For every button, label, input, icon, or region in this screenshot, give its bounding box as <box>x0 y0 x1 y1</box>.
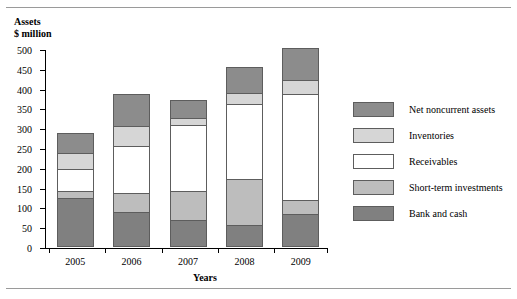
x-tick-label-2007: 2007 <box>178 256 198 267</box>
bar-2006[interactable] <box>113 49 150 247</box>
y-tick-label-200: 200 <box>17 163 32 174</box>
bar-segment-2006-short-term-investments[interactable] <box>113 193 150 214</box>
y-tick-350: 350 <box>40 109 45 110</box>
bar-segment-2006-bank-and-cash[interactable] <box>113 212 150 247</box>
bar-segment-2008-net-noncurrent-assets[interactable] <box>226 67 263 95</box>
x-axis-line <box>45 248 328 249</box>
bar-segment-2006-net-noncurrent-assets[interactable] <box>113 94 150 127</box>
y-tick-label-0: 0 <box>27 243 32 254</box>
x-axis-title: Years <box>150 272 260 283</box>
y-axis-title: Assets $ million <box>14 16 52 39</box>
bar-2005[interactable] <box>57 49 94 247</box>
bar-segment-2007-net-noncurrent-assets[interactable] <box>170 100 207 119</box>
y-tick-150: 150 <box>40 189 45 190</box>
y-tick-label-300: 300 <box>17 124 32 135</box>
x-tick-2007 <box>162 248 163 253</box>
bar-segment-2008-inventories[interactable] <box>226 93 263 105</box>
legend-label: Receivables <box>409 156 457 167</box>
legend-item[interactable]: Receivables <box>353 148 503 174</box>
bar-2008[interactable] <box>226 49 263 247</box>
legend-label: Short-term investments <box>409 182 503 193</box>
bar-segment-2009-receivables[interactable] <box>282 94 319 202</box>
y-tick-label-350: 350 <box>17 104 32 115</box>
chart-figure: Assets $ million 50045040035030025020015… <box>0 0 517 299</box>
y-tick-0: 0 <box>40 248 45 249</box>
bar-segment-2009-net-noncurrent-assets[interactable] <box>282 48 319 81</box>
bar-segment-2009-inventories[interactable] <box>282 80 319 95</box>
x-tick-end <box>327 248 328 253</box>
bar-2009[interactable] <box>282 49 319 247</box>
top-divider-rule <box>6 7 511 8</box>
y-tick-200: 200 <box>40 169 45 170</box>
legend-swatch-icon <box>353 128 394 143</box>
x-tick-label-2009: 2009 <box>291 256 311 267</box>
legend-item[interactable]: Inventories <box>353 122 503 148</box>
y-tick-label-500: 500 <box>17 45 32 56</box>
bar-2007[interactable] <box>170 49 207 247</box>
y-tick-label-150: 150 <box>17 183 32 194</box>
y-tick-label-400: 400 <box>17 84 32 95</box>
x-tick-label-2008: 2008 <box>234 256 254 267</box>
x-tick-2006 <box>105 248 106 253</box>
y-tick-label-250: 250 <box>17 144 32 155</box>
plot-area: 500450400350300250200150100500 200520062… <box>45 50 327 248</box>
bar-segment-2006-inventories[interactable] <box>113 126 150 147</box>
legend-item[interactable]: Short-term investments <box>353 174 503 200</box>
y-tick-400: 400 <box>40 90 45 91</box>
y-axis-line <box>45 50 46 249</box>
bar-segment-2008-short-term-investments[interactable] <box>226 179 263 227</box>
x-tick-2008 <box>218 248 219 253</box>
legend-swatch-icon <box>353 206 394 221</box>
x-tick-label-2006: 2006 <box>122 256 142 267</box>
bar-segment-2007-bank-and-cash[interactable] <box>170 220 207 247</box>
bar-segment-2007-short-term-investments[interactable] <box>170 191 207 222</box>
y-tick-300: 300 <box>40 129 45 130</box>
y-tick-label-50: 50 <box>22 223 32 234</box>
y-tick-label-450: 450 <box>17 64 32 75</box>
y-tick-100: 100 <box>40 208 45 209</box>
y-tick-250: 250 <box>40 149 45 150</box>
bar-segment-2005-short-term-investments[interactable] <box>57 191 94 200</box>
bar-segment-2009-bank-and-cash[interactable] <box>282 214 319 247</box>
bar-segment-2005-bank-and-cash[interactable] <box>57 198 94 247</box>
bar-segment-2005-net-noncurrent-assets[interactable] <box>57 133 94 154</box>
bar-segment-2007-receivables[interactable] <box>170 125 207 191</box>
x-tick-label-2005: 2005 <box>65 256 85 267</box>
bar-segment-2005-inventories[interactable] <box>57 153 94 170</box>
legend-label: Bank and cash <box>409 208 467 219</box>
y-tick-50: 50 <box>40 228 45 229</box>
x-tick-2009 <box>274 248 275 253</box>
bar-segment-2009-short-term-investments[interactable] <box>282 200 319 215</box>
legend-label: Net noncurrent assets <box>409 104 495 115</box>
y-tick-450: 450 <box>40 70 45 71</box>
x-tick-2005 <box>49 248 50 253</box>
legend-label: Inventories <box>409 130 454 141</box>
legend-swatch-icon <box>353 180 394 195</box>
chart-legend: Net noncurrent assetsInventoriesReceivab… <box>353 96 503 226</box>
bar-segment-2006-receivables[interactable] <box>113 146 150 194</box>
bar-segment-2008-receivables[interactable] <box>226 104 263 179</box>
bar-segment-2005-receivables[interactable] <box>57 169 94 192</box>
bar-segment-2007-inventories[interactable] <box>170 118 207 126</box>
legend-swatch-icon <box>353 102 394 117</box>
legend-item[interactable]: Net noncurrent assets <box>353 96 503 122</box>
bar-segment-2008-bank-and-cash[interactable] <box>226 225 263 247</box>
legend-swatch-icon <box>353 154 394 169</box>
legend-item[interactable]: Bank and cash <box>353 200 503 226</box>
y-tick-label-100: 100 <box>17 203 32 214</box>
y-tick-500: 500 <box>40 50 45 51</box>
bottom-divider-rule <box>6 288 511 289</box>
